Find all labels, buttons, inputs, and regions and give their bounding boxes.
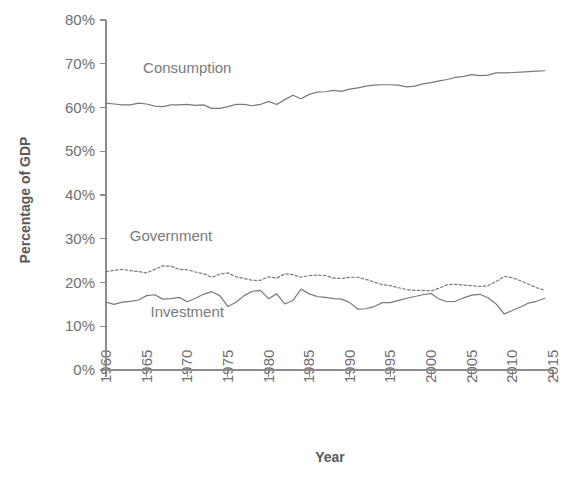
y-axis-title: Percentage of GDP	[17, 137, 33, 264]
y-axis-ticks: 0%10%20%30%40%50%60%70%80%	[65, 11, 106, 378]
y-axis-tick-label: 20%	[65, 274, 95, 291]
x-axis-tick-label: 2015	[544, 350, 561, 383]
y-axis-tick-label: 50%	[65, 142, 95, 159]
x-axis-tick-label: 1965	[138, 350, 155, 383]
data-series-group	[106, 71, 545, 314]
x-axis-tick-label: 1970	[178, 350, 195, 383]
y-axis-tick-label: 60%	[65, 99, 95, 116]
x-axis-tick-label: 1980	[260, 350, 277, 383]
y-axis-tick-label: 0%	[73, 361, 95, 378]
series-label-government: Government	[130, 227, 213, 244]
x-axis-tick-label: 1975	[219, 350, 236, 383]
x-axis-tick-label: 2000	[422, 350, 439, 383]
series-label-consumption: Consumption	[143, 59, 231, 76]
series-line-consumption	[106, 71, 545, 109]
line-chart: 0%10%20%30%40%50%60%70%80% 1960196519701…	[0, 0, 573, 489]
x-axis-tick-label: 1990	[341, 350, 358, 383]
x-axis-ticks: 1960196519701975198019851990199520002005…	[97, 350, 561, 383]
y-axis-tick-label: 70%	[65, 55, 95, 72]
x-axis-title: Year	[315, 449, 345, 465]
x-axis-tick-label: 1985	[300, 350, 317, 383]
x-axis-tick-label: 2010	[503, 350, 520, 383]
series-label-investment: Investment	[151, 303, 225, 320]
y-axis-tick-label: 40%	[65, 186, 95, 203]
series-labels-group: ConsumptionGovernmentInvestment	[130, 59, 232, 320]
y-axis-tick-label: 30%	[65, 230, 95, 247]
y-axis-tick-label: 80%	[65, 11, 95, 28]
chart-container: 0%10%20%30%40%50%60%70%80% 1960196519701…	[0, 0, 573, 489]
y-axis-tick-label: 10%	[65, 317, 95, 334]
series-line-government	[106, 266, 545, 291]
x-axis-tick-label: 2005	[463, 350, 480, 383]
x-axis-tick-label: 1995	[381, 350, 398, 383]
